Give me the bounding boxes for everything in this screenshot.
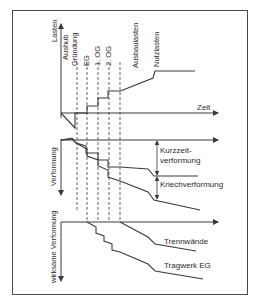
tragwerk-eg-curve <box>87 222 203 279</box>
load-deformation-diagram: Lasten Aushub Gründung EG 1. OG 2. OG Au… <box>0 0 264 304</box>
phase-label-eg: EG <box>82 55 91 66</box>
trennwaende-label: Trennwände <box>164 237 209 246</box>
verformung-label: Verformung <box>49 147 58 186</box>
middle-panel <box>61 138 218 210</box>
load-curve <box>61 71 195 128</box>
lasten-label: Lasten <box>50 19 59 42</box>
phase-label-2og: 2. OG <box>104 46 113 66</box>
kurzzeit-label-1: Kurzzeit- <box>160 146 192 155</box>
kurzzeit-label-2: verformung <box>160 156 200 165</box>
phase-label-nutzlasten: Nutzlasten <box>152 32 161 67</box>
wirksame-verformung-label: wirksame Verformung <box>49 210 58 284</box>
bottom-panel <box>61 222 218 281</box>
zeit-label: Zeit <box>197 103 211 112</box>
tragwerk-eg-label: Tragwerk EG <box>164 261 211 270</box>
phase-dashed-lines <box>77 62 120 222</box>
kriechverformung-label: Kriechverformung <box>160 180 223 189</box>
phase-label-gruendung: Gründung <box>70 33 79 66</box>
phase-label-aushub: Aushub <box>61 35 70 60</box>
phase-label-1og: 1. OG <box>93 46 102 66</box>
phase-label-ausbaulasten: Ausbaulasten <box>131 23 140 68</box>
